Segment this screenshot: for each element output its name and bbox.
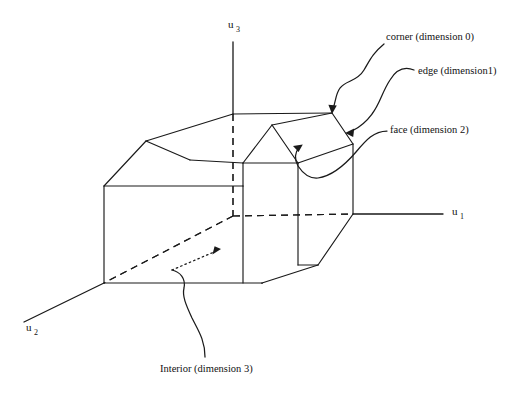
edge-top-belt-back [190,160,243,163]
edge-gable-left-slope [243,125,272,163]
leader-interior-arrowhead [212,246,221,254]
axis-u2-visible [24,283,104,322]
polyhedron-diagram: corner (dimension 0) edge (dimension1) f… [0,0,527,393]
axis-label-u1: u1 [452,205,464,221]
leader-corner [328,44,384,114]
hidden-edge-bottom-left [104,216,233,283]
axis-label-u2-subscript: 2 [34,328,38,337]
edge-gable-right-slope [272,125,298,163]
leader-face-path [295,131,387,178]
annotation-label-edge: edge (dimension1) [418,65,497,77]
axis-u2 [24,216,233,322]
leader-edge-arrowhead [345,129,354,137]
leader-edge-path [352,68,414,131]
annotation-label-interior: Interior (dimension 3) [160,363,253,375]
edge-bottom-right-bevel [318,214,353,265]
axis-label-u2: u2 [26,321,38,337]
annotation-label-corner: corner (dimension 0) [386,31,475,43]
edge-bottom-bevel-front [262,265,318,283]
edge-gable-apex-to-ridge [272,113,332,125]
leader-face-arrowhead [293,145,303,152]
leader-interior-dotted [172,252,214,270]
edge-left-bevel-front [104,141,146,186]
solid-edges [104,113,353,284]
axis-label-u1-base: u [452,205,458,217]
hidden-edges [104,114,353,283]
axis-label-u3-base: u [228,18,234,30]
annotation-label-face: face (dimension 2) [390,124,469,136]
axis-u1 [233,214,443,216]
edge-right-bevel-top [332,113,353,144]
hidden-edge-bottom-back [233,214,353,216]
leader-face [293,131,387,178]
edge-left-bevel-seam [146,141,190,160]
axis-label-u3: u3 [228,18,240,34]
diagram-canvas: corner (dimension 0) edge (dimension1) f… [0,0,527,393]
edge-ridge-back [233,113,332,114]
edge-left-bevel-top-back [146,114,233,141]
axis-label-u2-base: u [26,321,32,333]
axis-label-u3-subscript: 3 [236,25,240,34]
axis-label-u1-subscript: 1 [460,212,464,221]
edge-roof-face-lower [298,144,353,163]
leader-corner-path [333,44,384,108]
leader-interior [172,246,221,357]
